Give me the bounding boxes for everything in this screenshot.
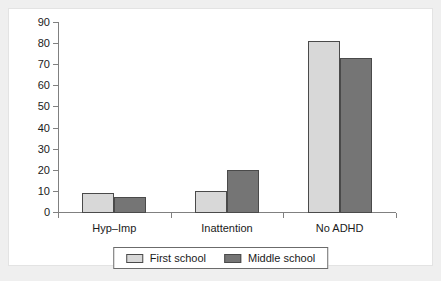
bar [195,191,227,213]
legend-label: Middle school [248,252,315,264]
y-axis-tick-label: 0 [44,204,50,220]
legend-entry: First school [126,252,206,264]
bar [114,197,146,213]
chart-legend: First schoolMiddle school [113,247,329,269]
y-axis-tick-mark [53,22,58,23]
x-axis-category-label: No ADHD [316,222,364,234]
y-axis-line [58,22,59,212]
x-axis-category-label: Hyp–Imp [92,222,136,234]
y-axis-tick-mark [53,64,58,65]
y-axis-tick-label: 20 [38,162,50,178]
x-axis-tick-mark [58,213,59,218]
y-axis-tick-label: 30 [38,141,50,157]
y-axis-tick-label: 90 [38,14,50,30]
y-axis-tick-mark [53,191,58,192]
bar [340,58,372,213]
x-axis-category-label: Inattention [201,222,252,234]
bar [82,193,114,213]
y-axis-tick-label: 50 [38,98,50,114]
bar [308,41,340,213]
y-axis-tick-label: 60 [38,77,50,93]
legend-entry: Middle school [224,252,315,264]
y-axis-tick-mark [53,85,58,86]
bar [227,170,259,213]
y-axis-tick-label: 80 [38,35,50,51]
y-axis-tick-mark [53,43,58,44]
chart-figure: 0102030405060708090 Hyp–ImpInattentionNo… [8,8,433,266]
y-axis-tick-mark [53,106,58,107]
x-axis-tick-mark [283,213,284,218]
legend-swatch-icon [126,254,143,263]
y-axis-tick-mark [53,128,58,129]
y-axis-tick-mark [53,149,58,150]
legend-swatch-icon [224,254,241,263]
y-axis-tick-label: 40 [38,120,50,136]
legend-label: First school [150,252,206,264]
x-axis-tick-mark [171,213,172,218]
y-axis-tick-label: 70 [38,56,50,72]
y-axis-tick-mark [53,170,58,171]
y-axis-tick-label: 10 [38,183,50,199]
x-axis-tick-mark [396,213,397,218]
plot-area: 0102030405060708090 Hyp–ImpInattentionNo… [58,22,396,226]
